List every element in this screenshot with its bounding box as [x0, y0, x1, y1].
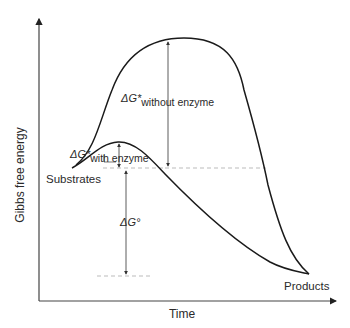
y-axis-label: Gibbs free energy	[13, 127, 27, 222]
x-axis-label: Time	[169, 307, 196, 321]
delta-g-standard-label: ΔG°	[119, 216, 141, 228]
substrates-label: Substrates	[46, 173, 101, 185]
products-label: Products	[284, 280, 330, 292]
energy-diagram: Gibbs free energy Time Substrates Produc…	[0, 0, 350, 328]
delta-g-without-label: ΔG*without enzyme	[120, 92, 214, 108]
